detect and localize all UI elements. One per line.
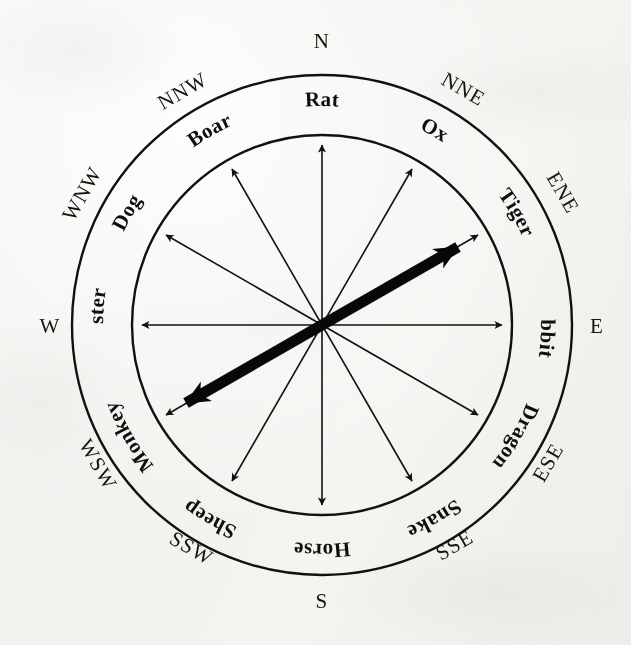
compass-label-w: W [40,314,61,338]
zodiac-label-horse: Horse [292,537,351,563]
figure-canvas: Rat Ox Tiger Rabbit Dragon Snake [0,0,631,645]
compass-label-n: N [314,29,330,53]
compass-label-s: S [316,589,329,613]
compass-label-ene: ENE [542,167,585,217]
zodiac-compass-diagram: Rat Ox Tiger Rabbit Dragon Snake [0,0,631,645]
compass-label-nnw: NNW [153,67,211,115]
compass-label-e: E [590,314,604,338]
zodiac-label-rooster: Rooster [0,0,111,324]
zodiac-label-ox: Ox [417,112,453,147]
compass-label-ese: ESE [527,439,568,486]
compass-svg: Rat Ox Tiger Rabbit Dragon Snake [0,0,631,645]
zodiac-label-boar: Boar [183,108,236,152]
zodiac-label-rat: Rat [304,87,340,112]
zodiac-label-dog: Dog [107,189,147,234]
compass-label-nne: NNE [437,67,489,111]
compass-label-wnw: WNW [57,162,107,224]
